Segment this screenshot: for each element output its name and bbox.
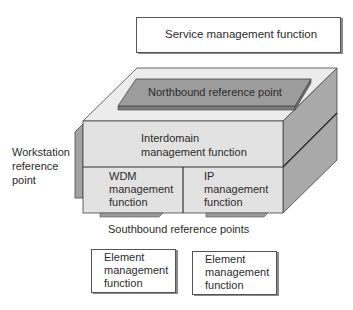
element-management-box-1: Element management function: [91, 249, 176, 293]
interdomain-line2: management function: [141, 146, 247, 159]
element-management-box-2: Element management function: [192, 251, 277, 295]
element2-line3: function: [205, 279, 244, 292]
wdm-line1: WDM: [109, 170, 137, 183]
ip-line3: function: [204, 196, 243, 209]
element1-line2: management: [104, 264, 168, 277]
wdm-line2: management: [109, 183, 173, 196]
element2-line1: Element: [205, 253, 245, 266]
northbound-slab-edge: [118, 106, 295, 110]
element1-line3: function: [104, 277, 143, 290]
service-management-label: Service management function: [165, 28, 317, 41]
southbound-label: Southbound reference points: [108, 223, 249, 236]
interdomain-line1: Interdomain: [141, 132, 199, 145]
workstation-line3: point: [12, 174, 36, 187]
service-management-box: Service management function: [136, 17, 341, 53]
northbound-label: Northbound reference point: [148, 86, 282, 99]
wdm-line3: function: [109, 196, 148, 209]
workstation-line2: reference: [12, 160, 58, 173]
workstation-line1: Workstation: [12, 146, 70, 159]
element2-line2: management: [205, 266, 269, 279]
element1-line1: Element: [104, 251, 144, 264]
southbound-tab-ip: [206, 213, 268, 217]
ip-line1: IP: [204, 170, 214, 183]
ip-line2: management: [204, 183, 268, 196]
workstation-panel: [75, 124, 83, 198]
southbound-tab-wdm: [100, 213, 163, 217]
